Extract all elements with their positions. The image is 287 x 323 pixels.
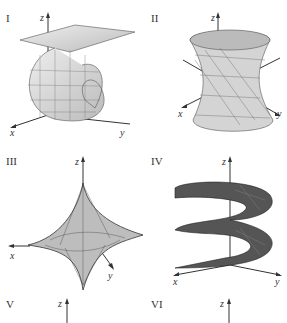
axis-label-z: z xyxy=(220,298,224,309)
axis-label-x: x xyxy=(10,250,14,261)
panel-II: II z x y xyxy=(145,0,287,150)
axis-label-z: z xyxy=(211,12,215,23)
panel-VI: VI z xyxy=(145,290,287,323)
panel-V: V z xyxy=(0,290,145,323)
axis-label-x: x xyxy=(10,127,14,138)
panel-IV: IV z x y xyxy=(145,150,287,290)
axis-label-y: y xyxy=(275,276,279,287)
axis-label-z: z xyxy=(222,156,226,167)
axis-label-x: x xyxy=(178,108,182,119)
surface-plot-III xyxy=(0,150,145,290)
panel-III: III z x y xyxy=(0,150,145,290)
surface-plot-IV xyxy=(145,150,287,290)
axis-label-y: y xyxy=(108,270,112,281)
axis-label-x: x xyxy=(173,276,177,287)
axis-label-y: y xyxy=(277,108,281,119)
surface-plot-VI xyxy=(145,290,287,323)
surface-plot-V xyxy=(0,290,145,323)
panel-I: I z x y xyxy=(0,0,145,150)
axis-label-z: z xyxy=(58,298,62,309)
axis-label-z: z xyxy=(75,156,79,167)
axis-label-y: y xyxy=(120,127,124,138)
surface-plot-II xyxy=(145,0,287,150)
axis-label-z: z xyxy=(40,12,44,23)
